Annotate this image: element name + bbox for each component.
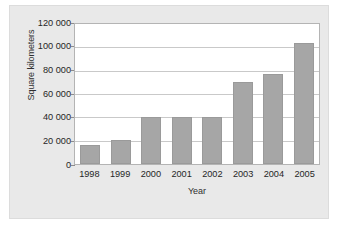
bar [172,117,192,164]
y-axis-tick-label: 20 000 [43,136,71,147]
bar [294,43,314,164]
bar-slot [258,24,289,164]
y-axis-tick-label: 0 [66,160,71,171]
bar-series [75,24,319,164]
bar [202,117,222,164]
bar-slot [136,24,167,164]
x-axis-tick-label: 2001 [166,168,197,182]
y-axis-tick-label: 100 000 [38,41,71,52]
x-axis-tick-label: 2005 [289,168,320,182]
x-axis-tick-label: 2000 [136,168,167,182]
y-axis-tick-label: 60 000 [43,89,71,100]
bar [80,145,100,164]
bar-slot [106,24,137,164]
x-axis-tick-labels: 19981999200020012002200320042005 [74,168,320,182]
plot-area [74,23,320,165]
y-axis-tick-label: 120 000 [38,18,71,29]
bar [233,82,253,164]
chart-figure: Square kilometers 120 000100 00080 00060… [9,5,329,219]
x-axis-tick-label: 1998 [74,168,105,182]
bar-slot [75,24,106,164]
bar-slot [167,24,198,164]
bar-slot [228,24,259,164]
x-axis-tick-label: 2004 [259,168,290,182]
x-axis-title: Year [74,186,320,196]
y-axis-tick-labels: 120 000100 00080 00060 00040 00020 0000 [26,18,74,170]
bar [111,140,131,164]
y-axis-tick-label: 40 000 [43,112,71,123]
y-axis-tick-label: 80 000 [43,65,71,76]
x-axis-tick-label: 2003 [228,168,259,182]
bar-slot [289,24,320,164]
x-axis-tick-label: 2002 [197,168,228,182]
bar [141,117,161,164]
x-axis-tick-label: 1999 [105,168,136,182]
bar-slot [197,24,228,164]
bar [263,74,283,164]
